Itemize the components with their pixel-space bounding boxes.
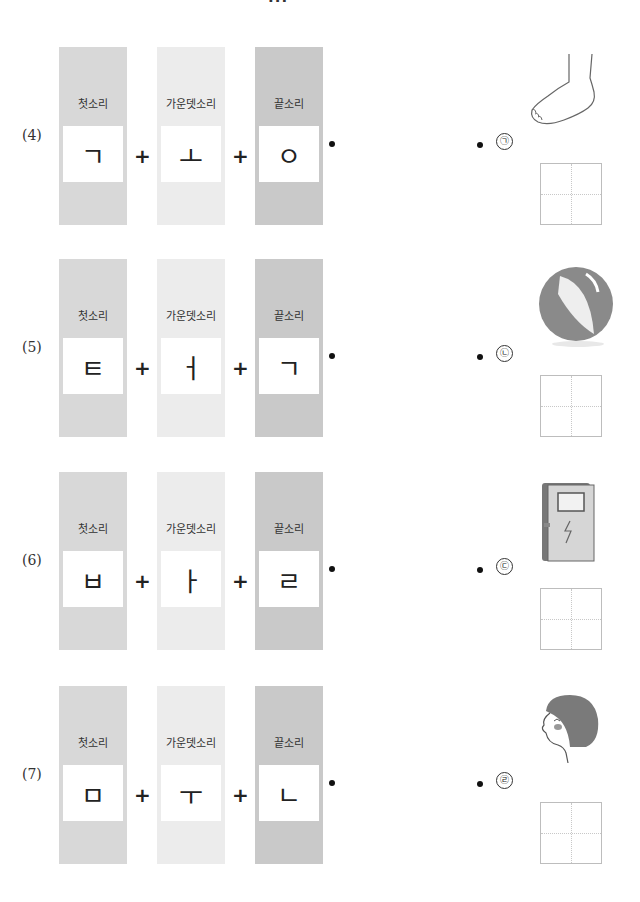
initial-sound-label: 첫소리 <box>59 520 127 536</box>
medial-sound-label: 가운뎃소리 <box>157 520 225 536</box>
medial-letter: ㅓ <box>161 338 221 394</box>
medial-sound-column: 가운뎃소리 ㅏ <box>157 472 225 650</box>
medial-sound-label: 가운뎃소리 <box>157 307 225 323</box>
medial-sound-label: 가운뎃소리 <box>157 734 225 750</box>
medial-sound-column: 가운뎃소리 ㅓ <box>157 259 225 437</box>
choice-label: ㉣ <box>496 772 513 789</box>
medial-letter: ㅜ <box>161 765 221 821</box>
medial-sound-column: 가운뎃소리 ㅜ <box>157 686 225 864</box>
answer-writing-box[interactable] <box>540 375 602 437</box>
match-dot-left[interactable] <box>329 141 335 147</box>
final-letter: ㄴ <box>259 765 319 821</box>
initial-letter: ㅂ <box>63 551 123 607</box>
plus-sign: + <box>134 356 151 380</box>
match-dot-right[interactable] <box>477 567 483 573</box>
final-sound-column: 끝소리 ㄹ <box>255 472 323 650</box>
match-dot-right[interactable] <box>477 142 483 148</box>
match-dot-left[interactable] <box>329 780 335 786</box>
final-letter: ㄱ <box>259 338 319 394</box>
initial-sound-column: 첫소리 ㅂ <box>59 472 127 650</box>
initial-sound-column: 첫소리 ㄱ <box>59 47 127 225</box>
answer-writing-box[interactable] <box>540 802 602 864</box>
match-dot-left[interactable] <box>329 566 335 572</box>
choice-label: ㉠ <box>496 133 513 150</box>
initial-sound-column: 첫소리 ㅁ <box>59 686 127 864</box>
final-sound-label: 끝소리 <box>255 734 323 750</box>
plus-sign: + <box>134 783 151 807</box>
plus-sign: + <box>134 569 151 593</box>
beach-ball-icon <box>528 264 618 349</box>
match-dot-right[interactable] <box>477 354 483 360</box>
final-sound-column: 끝소리 ㄱ <box>255 259 323 437</box>
initial-letter: ㅁ <box>63 765 123 821</box>
clipped-header-text: ··· <box>268 0 573 3</box>
initial-sound-label: 첫소리 <box>59 734 127 750</box>
electrical-cabinet-icon <box>528 477 618 562</box>
match-dot-left[interactable] <box>329 353 335 359</box>
problem-row: (4) 첫소리 ㄱ + 가운뎃소리 ㅗ + 끝소리 ㅇ ㉠ <box>0 47 640 227</box>
initial-sound-label: 첫소리 <box>59 95 127 111</box>
problem-row: (5) 첫소리 ㅌ + 가운뎃소리 ㅓ + 끝소리 ㄱ ㉡ <box>0 259 640 439</box>
problem-number: (6) <box>22 552 42 568</box>
foot-icon <box>528 52 618 137</box>
problem-row: (6) 첫소리 ㅂ + 가운뎃소리 ㅏ + 끝소리 ㄹ ㉢ <box>0 472 640 652</box>
initial-sound-column: 첫소리 ㅌ <box>59 259 127 437</box>
match-dot-right[interactable] <box>477 781 483 787</box>
medial-sound-column: 가운뎃소리 ㅗ <box>157 47 225 225</box>
plus-sign: + <box>232 356 249 380</box>
problem-row: (7) 첫소리 ㅁ + 가운뎃소리 ㅜ + 끝소리 ㄴ ㉣ <box>0 686 640 866</box>
answer-writing-box[interactable] <box>540 588 602 650</box>
final-sound-column: 끝소리 ㅇ <box>255 47 323 225</box>
plus-sign: + <box>232 569 249 593</box>
initial-letter: ㅌ <box>63 338 123 394</box>
medial-letter: ㅗ <box>161 126 221 182</box>
problem-number: (7) <box>22 766 42 782</box>
problem-number: (4) <box>22 127 42 143</box>
final-letter: ㄹ <box>259 551 319 607</box>
final-letter: ㅇ <box>259 126 319 182</box>
answer-writing-box[interactable] <box>540 163 602 225</box>
medial-sound-label: 가운뎃소리 <box>157 95 225 111</box>
plus-sign: + <box>232 144 249 168</box>
plus-sign: + <box>232 783 249 807</box>
final-sound-column: 끝소리 ㄴ <box>255 686 323 864</box>
choice-label: ㉢ <box>496 558 513 575</box>
final-sound-label: 끝소리 <box>255 95 323 111</box>
choice-label: ㉡ <box>496 345 513 362</box>
final-sound-label: 끝소리 <box>255 520 323 536</box>
initial-letter: ㄱ <box>63 126 123 182</box>
problem-number: (5) <box>22 339 42 355</box>
plus-sign: + <box>134 144 151 168</box>
girl-face-icon <box>528 691 618 776</box>
medial-letter: ㅏ <box>161 551 221 607</box>
initial-sound-label: 첫소리 <box>59 307 127 323</box>
final-sound-label: 끝소리 <box>255 307 323 323</box>
